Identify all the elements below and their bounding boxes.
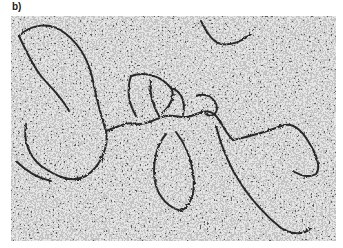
micrograph-image: [11, 16, 336, 241]
figure-panel: b): [0, 0, 343, 248]
panel-label: b): [12, 1, 21, 13]
micrograph-svg: [11, 16, 336, 241]
